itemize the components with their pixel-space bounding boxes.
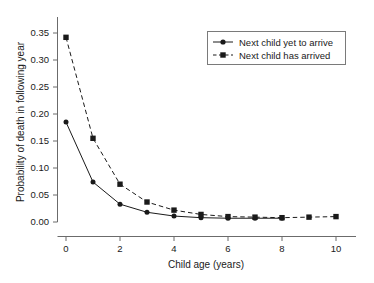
x-tick-label: 4 [171, 243, 176, 254]
data-point-marker [118, 202, 123, 207]
chart-legend: Next child yet to arrive Next child has … [208, 32, 346, 65]
x-axis-ticks: 0246810 [63, 237, 341, 255]
series-line-1 [66, 122, 282, 218]
legend-marker-square-icon [220, 52, 225, 57]
x-axis-title: Child age (years) [168, 259, 244, 270]
data-point-marker [333, 214, 338, 219]
y-tick-label: 0.30 [31, 54, 50, 65]
data-point-marker [172, 214, 177, 219]
y-tick-label: 0.15 [31, 135, 50, 146]
data-point-marker [306, 214, 311, 219]
data-point-marker [279, 215, 284, 220]
data-point-marker [91, 180, 96, 185]
data-point-marker [145, 210, 150, 215]
y-tick-label: 0.05 [31, 189, 50, 200]
y-tick-label: 0.35 [31, 27, 50, 38]
legend-label-series-2: Next child has arrived [239, 50, 330, 61]
x-tick-label: 8 [279, 243, 284, 254]
data-point-marker [117, 182, 122, 187]
data-point-marker [252, 214, 257, 219]
chart-figure: 0.000.050.100.150.200.250.300.35 0246810… [0, 0, 374, 283]
y-tick-label: 0.10 [31, 162, 50, 173]
line-chart: 0.000.050.100.150.200.250.300.35 0246810… [0, 0, 374, 283]
series-1 [64, 120, 285, 221]
x-tick-label: 10 [331, 243, 342, 254]
y-tick-label: 0.20 [31, 108, 50, 119]
legend-label-series-1: Next child yet to arrive [239, 37, 333, 48]
x-tick-label: 2 [117, 243, 122, 254]
data-point-marker [64, 120, 69, 125]
data-point-marker [144, 199, 149, 204]
data-point-marker [198, 212, 203, 217]
data-point-marker [171, 207, 176, 212]
legend-marker-circle-icon [220, 39, 225, 44]
y-tick-label: 0.25 [31, 81, 50, 92]
data-point-marker [90, 136, 95, 141]
data-point-marker [63, 35, 68, 40]
y-tick-label: 0.00 [31, 216, 50, 227]
data-point-marker [225, 214, 230, 219]
y-axis-title: Probability of death in following year [15, 41, 26, 202]
x-tick-label: 6 [225, 243, 230, 254]
x-tick-label: 0 [63, 243, 68, 254]
y-axis-ticks: 0.000.050.100.150.200.250.300.35 [31, 27, 58, 227]
